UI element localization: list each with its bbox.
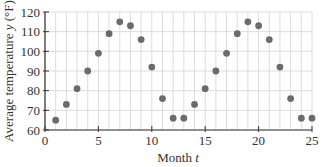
data-point: [63, 101, 70, 108]
x-tick-label: 10: [145, 133, 158, 148]
y-tick-label: 70: [27, 103, 40, 118]
x-tick-label: 0: [42, 133, 49, 148]
data-point: [84, 68, 91, 75]
y-axis-label: Average temperature y (°F): [1, 0, 16, 142]
data-point: [159, 95, 166, 102]
x-tick-label: 5: [95, 133, 102, 148]
data-point: [266, 36, 273, 43]
data-point: [138, 36, 145, 43]
data-point: [298, 115, 305, 122]
data-point: [116, 18, 123, 25]
data-point: [223, 50, 230, 57]
x-tick-label: 25: [306, 133, 319, 148]
data-point: [180, 115, 187, 122]
y-tick-label: 110: [21, 24, 40, 39]
data-point: [191, 101, 198, 108]
data-point: [287, 95, 294, 102]
x-axis-ticks: 0510152025: [42, 126, 319, 148]
data-point: [255, 22, 262, 29]
y-tick-label: 80: [27, 83, 40, 98]
data-point: [277, 64, 284, 71]
y-tick-label: 90: [27, 64, 40, 79]
data-point: [74, 85, 81, 92]
data-point: [212, 68, 219, 75]
y-tick-label: 100: [21, 44, 41, 59]
data-point: [234, 30, 241, 37]
data-point: [52, 117, 59, 124]
data-point: [95, 50, 102, 57]
data-point: [245, 18, 252, 25]
data-point: [127, 22, 134, 29]
y-tick-label: 120: [21, 5, 41, 20]
data-point: [202, 85, 209, 92]
y-tick-label: 60: [27, 123, 40, 138]
temperature-scatter-chart: 0510152025 60708090100110120 Month t Ave…: [0, 0, 323, 167]
x-tick-label: 15: [199, 133, 212, 148]
x-axis-label: Month t: [157, 150, 199, 165]
x-tick-label: 20: [252, 133, 265, 148]
data-point: [148, 64, 155, 71]
data-point: [106, 30, 113, 37]
data-point: [309, 115, 316, 122]
data-point: [170, 115, 177, 122]
